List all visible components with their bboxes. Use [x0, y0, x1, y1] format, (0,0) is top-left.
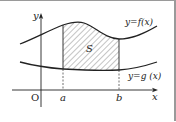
area-s-label: S [86, 43, 93, 54]
y-axis-label: y [32, 10, 39, 21]
f-curve-label: y=f(x) [124, 17, 154, 27]
g-curve-label: y=g (x) [127, 71, 162, 81]
a-label: a [60, 92, 66, 103]
origin-label: O [31, 92, 39, 103]
x-axis-label: x [152, 91, 158, 102]
b-label: b [116, 92, 122, 103]
area-between-curves-diagram: y x O a b S y=f(x) y=g (x) [0, 0, 176, 122]
